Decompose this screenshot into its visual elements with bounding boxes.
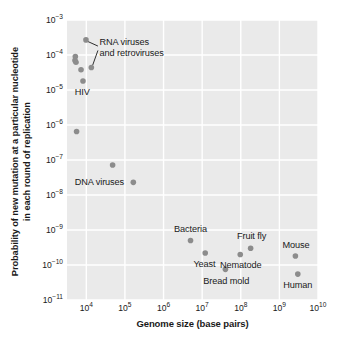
data-point-rna-virus-5 xyxy=(78,67,84,73)
y-tick-label: 10−8 xyxy=(46,191,63,200)
y-tick-label: 10−11 xyxy=(43,296,63,305)
mutation-rate-scatter-figure: Probability of new mutation at a particu… xyxy=(0,0,344,339)
data-point-nematode xyxy=(237,252,243,258)
y-tick-label: 10−4 xyxy=(46,51,63,60)
x-tick-label: 109 xyxy=(273,304,286,313)
x-axis-title: Genome size (base pairs) xyxy=(67,318,318,329)
dna-viruses-label: DNA viruses xyxy=(75,177,124,188)
plot-area: 10−310−410−510−610−710−810−910−1010−1110… xyxy=(67,20,318,300)
data-point-dna-virus-1 xyxy=(74,129,80,135)
data-points xyxy=(72,37,300,277)
fruit-fly-label: Fruit fly xyxy=(237,231,266,242)
y-tick-label: 10−5 xyxy=(46,86,63,95)
nematode-label: Nematode xyxy=(220,260,262,271)
data-point-rna-virus-1 xyxy=(83,37,89,43)
data-point-hiv xyxy=(80,78,86,84)
x-tick-label: 108 xyxy=(234,304,247,313)
y-axis-title: Probability of new mutation at a particu… xyxy=(10,17,33,307)
y-tick-label: 10−10 xyxy=(42,261,63,270)
x-tick-label: 104 xyxy=(80,304,93,313)
data-point-rna-virus-6 xyxy=(89,65,95,71)
y-tick-label: 10−9 xyxy=(46,226,63,235)
x-tick-label: 106 xyxy=(157,304,170,313)
y-tick-label: 10−3 xyxy=(46,16,63,25)
data-point-dna-virus-2 xyxy=(110,162,116,168)
annotation-leader-line xyxy=(88,41,98,46)
bacteria-label: Bacteria xyxy=(174,224,207,235)
data-point-fruit-fly xyxy=(248,246,254,252)
data-point-bacteria xyxy=(188,238,194,244)
data-point-dna-virus-3 xyxy=(131,180,137,186)
mouse-label: Mouse xyxy=(282,239,309,250)
x-tick-label: 1010 xyxy=(310,304,327,313)
data-point-human xyxy=(295,271,301,277)
x-tick-label: 105 xyxy=(118,304,131,313)
annotation-leader-line xyxy=(93,50,98,65)
bread-mold-label: Bread mold xyxy=(203,275,249,286)
y-tick-label: 10−7 xyxy=(46,156,63,165)
leader-lines xyxy=(88,41,98,65)
y-tick-label: 10−6 xyxy=(46,121,63,130)
hiv-label: HIV xyxy=(75,86,90,97)
human-label: Human xyxy=(283,279,312,290)
data-point-yeast xyxy=(202,250,208,256)
yeast-label: Yeast xyxy=(193,259,215,270)
data-point-rna-virus-4 xyxy=(73,59,79,65)
data-point-mouse xyxy=(293,253,299,259)
x-tick-label: 107 xyxy=(196,304,209,313)
rna-viruses-label: RNA viruses and retroviruses xyxy=(100,37,164,59)
